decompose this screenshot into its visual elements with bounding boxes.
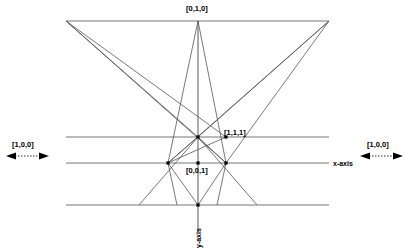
label-right-direction-1-0-0: [1,0,0]: [367, 140, 389, 149]
vertex-dot-bottom: [196, 203, 199, 206]
label-x-axis: x-axis: [333, 159, 353, 168]
label-point-0-0-1: [0,0,1]: [186, 166, 208, 175]
vertex-dot-center: [196, 135, 199, 138]
label-point-0-1-0: [0,1,0]: [186, 4, 208, 13]
vertex-dot-origin: [196, 161, 199, 164]
right-arrow-head-west: [360, 152, 370, 159]
line-topright-to-originright: [226, 21, 329, 163]
right-arrow-head-east: [393, 152, 403, 159]
projective-geometry-figure: [0, 0, 409, 252]
label-y-axis: y-axis: [194, 228, 203, 248]
line-topleft-to-unitpoint: [66, 21, 226, 137]
vertex-dot-origin-left: [166, 161, 169, 164]
diagram-canvas: [0,1,0] [1,1,1] [0,0,1] [1,0,0] [1,0,0] …: [0, 0, 409, 252]
label-left-direction-1-0-0: [1,0,0]: [12, 140, 34, 149]
right-double-arrow: [360, 152, 403, 159]
left-arrow-head-east: [39, 152, 49, 159]
label-point-1-1-1: [1,1,1]: [224, 128, 246, 137]
vertex-dot-origin-right: [224, 161, 227, 164]
left-double-arrow: [6, 152, 49, 159]
left-arrow-head-west: [6, 152, 16, 159]
lines-from-apex: [168, 21, 226, 163]
